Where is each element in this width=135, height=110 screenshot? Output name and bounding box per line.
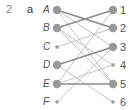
right-label-3: 3 [120,41,126,53]
edge-c-2 [57,28,113,47]
right-node-3 [109,43,117,51]
right-label-2: 2 [120,22,126,34]
left-label-e: E [43,78,50,89]
right-node-2 [109,24,117,32]
right-node-5 [109,80,117,88]
right-node-1 [109,6,117,14]
left-label-f: F [43,96,49,107]
left-label-d: D [43,59,50,70]
left-label-c: C [43,41,50,52]
right-node-4 [111,63,115,67]
right-node-6 [111,100,115,104]
bipartite-graph [0,0,135,110]
left-node-f [55,100,59,104]
left-node-c [55,45,59,49]
right-label-6: 6 [120,96,126,108]
right-label-4: 4 [120,59,126,71]
left-node-e [53,80,61,88]
left-node-d [53,61,61,69]
edge-d-3 [57,47,113,65]
edge-a-3 [57,10,113,47]
left-label-a: A [43,4,50,15]
right-label-5: 5 [120,78,126,90]
left-node-b [53,24,61,32]
left-label-b: B [43,22,50,33]
left-node-a [53,6,61,14]
right-label-1: 1 [120,4,126,16]
